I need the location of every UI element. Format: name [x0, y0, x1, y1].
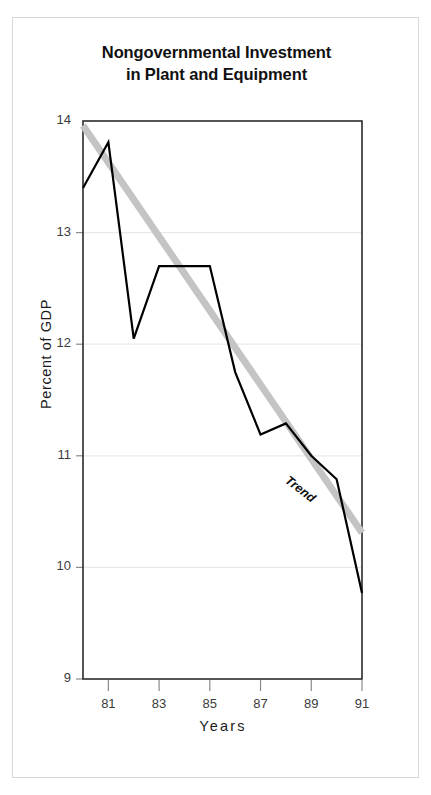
x-tick-label-85: 85 [190, 696, 230, 711]
y-tick-label-10: 10 [31, 558, 71, 573]
x-tick-label-89: 89 [291, 696, 331, 711]
gridlines [83, 233, 362, 568]
x-tick-label-81: 81 [88, 696, 128, 711]
plot-frame [83, 121, 362, 679]
x-tick-label-83: 83 [139, 696, 179, 711]
y-tick-label-11: 11 [31, 447, 71, 462]
chart-canvas [13, 18, 420, 779]
y-axis-label: Percent of GDP [38, 274, 54, 434]
x-tick-label-87: 87 [241, 696, 281, 711]
y-tick-label-13: 13 [31, 224, 71, 239]
data-series-line [83, 142, 362, 593]
y-tick-label-9: 9 [31, 670, 71, 685]
trend-line [83, 125, 362, 532]
y-tick-label-14: 14 [31, 112, 71, 127]
x-axis-label: Years [83, 718, 363, 734]
x-tick-label-91: 91 [342, 696, 382, 711]
figure-panel: Nongovernmental Investment in Plant and … [12, 17, 419, 778]
plot-area: 91011121314 818385878991 Percent of GDP … [13, 18, 420, 779]
